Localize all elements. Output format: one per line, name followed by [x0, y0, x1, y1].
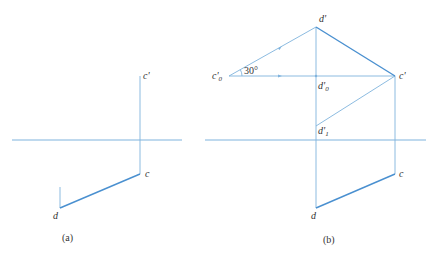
point-d0-prime	[315, 75, 317, 77]
figure-a: c' c d (a)	[12, 70, 182, 244]
label-c-b: c	[399, 168, 404, 179]
caption-a: (a)	[62, 232, 73, 244]
label-d0-prime: d'0	[318, 80, 329, 93]
label-angle: 30°	[244, 65, 258, 76]
line-dc-a	[60, 174, 140, 208]
label-c-prime-a: c'	[143, 70, 150, 81]
label-d-prime-b: d'	[319, 13, 327, 24]
line-d1-c-prime	[316, 76, 395, 126]
label-d-a: d	[53, 210, 59, 221]
label-c-prime-b: c'	[399, 70, 406, 81]
angle-arc	[240, 70, 242, 76]
caption-b: (b)	[323, 234, 335, 246]
figure-b: d' c'0 30° c' d'0 d'1 c d (b)	[205, 13, 426, 246]
label-c-a: c	[145, 168, 150, 179]
diagram-canvas: c' c d (a) d' c'0 30° c' d'0 d'1 c	[0, 0, 434, 256]
label-d1-prime: d'1	[318, 125, 329, 138]
line-c0-d-prime	[229, 27, 316, 76]
line-dc-b	[316, 174, 395, 208]
line-d-prime-c-prime	[316, 27, 395, 76]
label-d-b: d	[311, 210, 317, 221]
arrow-marker-icon	[278, 75, 282, 78]
label-c0-prime: c'0	[212, 70, 223, 83]
